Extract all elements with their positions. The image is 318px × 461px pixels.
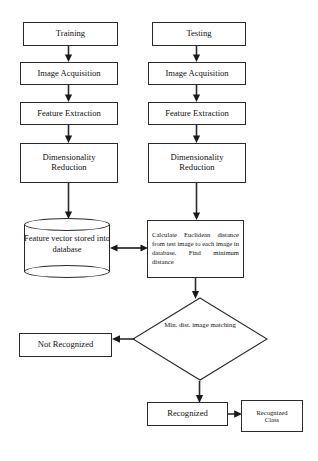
- node-feature-extraction-testing-label: Feature Extraction: [149, 109, 245, 119]
- node-dimensionality-reduction-testing[interactable]: Dimensionality Reduction: [148, 143, 246, 183]
- node-dimensionality-reduction-training[interactable]: Dimensionality Reduction: [20, 143, 118, 183]
- node-training[interactable]: Training: [23, 22, 118, 46]
- edge-dimensionality-to-calculate: [191, 183, 202, 220]
- node-feature-extraction-testing[interactable]: Feature Extraction: [148, 102, 246, 125]
- edge-testing-to-acquisition: [191, 46, 202, 62]
- edge-dimensionality-to-database: [63, 183, 74, 219]
- node-image-acquisition-training[interactable]: Image Acquisition: [20, 62, 118, 85]
- node-not-recognized-label: Not Recognized: [20, 340, 111, 350]
- node-calculate-euclidean[interactable]: Calculate Euclidean distance from test i…: [147, 220, 244, 278]
- node-min-dist-decision-label: Min. dist. image matching: [132, 321, 268, 329]
- node-dimensionality-reduction-testing-line2: Reduction: [149, 163, 245, 173]
- node-calculate-euclidean-label: Calculate Euclidean distance from test i…: [148, 228, 243, 269]
- node-recognized-class[interactable]: Recognized Class: [241, 400, 303, 432]
- edge-calculate-to-decision: [190, 278, 201, 299]
- node-image-acquisition-training-label: Image Acquisition: [21, 69, 117, 79]
- node-recognized-class-line2: Class: [242, 416, 302, 423]
- cylinder-top-ellipse: [24, 218, 110, 231]
- node-feature-vector-database[interactable]: Feature vector stored into database: [24, 218, 110, 278]
- decision-line-2: matching: [210, 321, 235, 328]
- edge-feature-to-dimensionality-testing: [191, 125, 202, 143]
- edge-acquisition-to-feature-testing: [191, 85, 202, 102]
- node-recognized-label: Recognized: [148, 409, 227, 419]
- edge-feature-to-dimensionality-training: [63, 125, 74, 143]
- db-line-1: Feature vector: [24, 234, 72, 243]
- node-feature-extraction-training-label: Feature Extraction: [21, 109, 117, 119]
- node-image-acquisition-testing[interactable]: Image Acquisition: [148, 62, 246, 85]
- edge-decision-to-recognized: [194, 381, 205, 403]
- flowchart-canvas: Training Image Acquisition Feature Extra…: [0, 0, 318, 461]
- node-training-label: Training: [24, 29, 117, 39]
- decision-line-1: Min. dist. image: [164, 321, 209, 328]
- node-dimensionality-reduction-training-line2: Reduction: [21, 163, 117, 173]
- db-line-3: database: [53, 245, 82, 254]
- node-feature-extraction-training[interactable]: Feature Extraction: [20, 102, 118, 125]
- edge-decision-to-not-recognized: [112, 332, 135, 346]
- node-recognized[interactable]: Recognized: [147, 402, 228, 426]
- node-feature-vector-database-label: Feature vector stored into database: [24, 234, 110, 255]
- edge-training-to-acquisition: [63, 46, 74, 62]
- node-testing-label: Testing: [153, 29, 245, 39]
- node-image-acquisition-testing-label: Image Acquisition: [149, 69, 245, 79]
- cylinder-bottom-ellipse: [24, 265, 110, 278]
- edge-database-to-calculate: [110, 241, 148, 255]
- edge-acquisition-to-feature-training: [63, 85, 74, 102]
- node-testing[interactable]: Testing: [152, 22, 246, 46]
- node-recognized-class-line1: Recognized: [242, 409, 302, 416]
- node-not-recognized[interactable]: Not Recognized: [19, 333, 112, 357]
- edge-recognized-to-class: [228, 407, 242, 421]
- node-min-dist-decision[interactable]: Min. dist. image matching: [132, 297, 268, 381]
- db-line-2: stored into: [74, 234, 110, 243]
